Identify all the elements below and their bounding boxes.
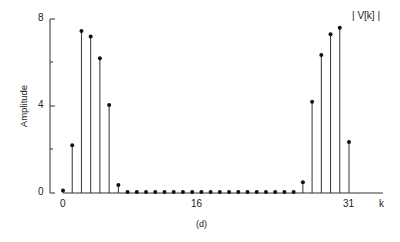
- stem-marker: [236, 190, 240, 194]
- stem-marker: [126, 190, 130, 194]
- stem-marker: [218, 190, 222, 194]
- y-tick-label-8: 8: [38, 12, 44, 23]
- stem-marker: [282, 190, 286, 194]
- x-tick-label-0: 0: [60, 198, 66, 209]
- stem-marker: [273, 190, 277, 194]
- stem-marker: [172, 190, 176, 194]
- y-tick-label-4: 4: [38, 99, 44, 110]
- series-legend-label: | V[k] |: [352, 10, 380, 21]
- stem-marker: [144, 190, 148, 194]
- stem-marker: [98, 56, 102, 60]
- stem-marker: [319, 53, 323, 57]
- stem-marker: [255, 190, 259, 194]
- stem-marker: [70, 143, 74, 147]
- stem-marker: [181, 190, 185, 194]
- stem-marker: [264, 190, 268, 194]
- stem-series: [61, 26, 351, 194]
- stem-marker: [190, 190, 194, 194]
- stem-marker: [301, 180, 305, 184]
- y-axis-label: Amplitude: [18, 85, 29, 127]
- stem-marker: [89, 34, 93, 38]
- y-tick-label-0: 0: [38, 186, 44, 197]
- stem-marker: [310, 100, 314, 104]
- stem-marker: [227, 190, 231, 194]
- figure-caption: (d): [196, 219, 207, 229]
- stem-marker: [79, 29, 83, 33]
- stem-marker: [162, 190, 166, 194]
- x-axis-label: k: [379, 198, 384, 209]
- stem-marker: [135, 190, 139, 194]
- stem-marker: [199, 190, 203, 194]
- x-tick-label-16: 16: [191, 198, 202, 209]
- stem-marker: [347, 140, 351, 144]
- stem-marker: [153, 190, 157, 194]
- stem-marker: [107, 103, 111, 107]
- stem-marker: [292, 190, 296, 194]
- stem-marker: [61, 188, 65, 192]
- stem-marker: [116, 183, 120, 187]
- stem-marker: [329, 32, 333, 36]
- x-tick-label-31: 31: [343, 198, 354, 209]
- stem-marker: [209, 190, 213, 194]
- stem-marker: [246, 190, 250, 194]
- stem-marker: [338, 26, 342, 30]
